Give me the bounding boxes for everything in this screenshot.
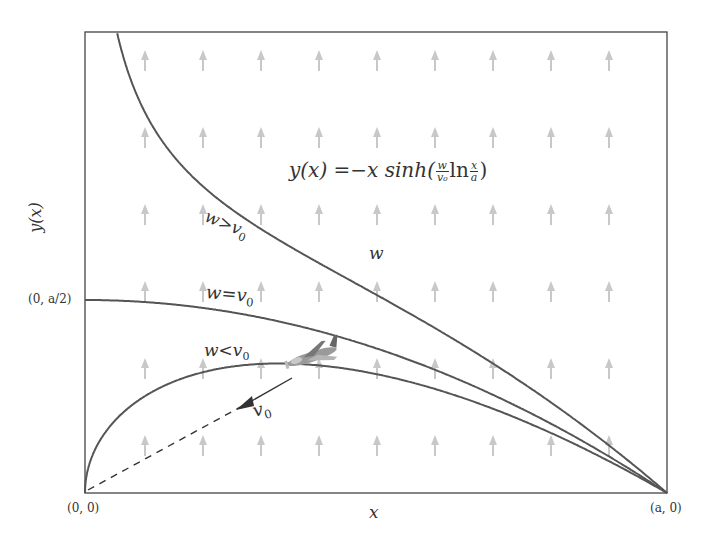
- wind-arrowhead-icon: [373, 358, 381, 368]
- trajectory-curve-w-eq-v0: [85, 300, 667, 493]
- wind-arrowhead-icon: [257, 50, 265, 60]
- wind-arrowhead-icon: [199, 127, 207, 137]
- wind-arrowhead-icon: [489, 50, 497, 60]
- wind-arrowhead-icon: [199, 435, 207, 445]
- half-height-label: (0, a/2): [28, 292, 71, 306]
- wind-arrowhead-icon: [605, 281, 613, 291]
- wind-arrowhead-icon: [605, 50, 613, 60]
- wind-arrowhead-icon: [605, 358, 613, 368]
- formula-frac-w-v0: wv₀: [436, 160, 449, 183]
- trajectory-curves: [85, 33, 667, 493]
- wind-arrowhead-icon: [315, 281, 323, 291]
- formula-rhs-prefix: −x sinh(: [350, 158, 435, 182]
- formula-equals: =: [334, 158, 351, 182]
- y-axis-label: y(x): [26, 202, 45, 233]
- x-axis-label: x: [369, 502, 379, 522]
- formula-label: y(x) =−x sinh(wv₀lnxa): [289, 158, 487, 183]
- plot-canvas: [0, 0, 702, 541]
- wind-arrowhead-icon: [373, 127, 381, 137]
- airplane-icon: [281, 334, 345, 375]
- wind-arrowhead-icon: [431, 435, 439, 445]
- wind-arrowhead-icon: [431, 127, 439, 137]
- wind-arrowhead-icon: [257, 281, 265, 291]
- formula-ln: ln: [450, 158, 469, 182]
- trajectory-curve-w-gt-v0: [117, 33, 667, 493]
- label-w-lt-v0: w<v0: [204, 340, 249, 363]
- wind-arrowhead-icon: [489, 204, 497, 214]
- formula-frac-x-a: xa: [470, 160, 479, 183]
- wind-arrowhead-icon: [199, 50, 207, 60]
- trajectory-curve-w-lt-v0: [85, 364, 667, 494]
- end-point-label: (a, 0): [650, 501, 682, 515]
- wind-arrowhead-icon: [547, 281, 555, 291]
- wind-arrowhead-icon: [547, 50, 555, 60]
- formula-rhs-suffix: ): [479, 158, 487, 182]
- wind-arrowhead-icon: [547, 204, 555, 214]
- wind-arrowhead-icon: [489, 281, 497, 291]
- wind-arrowhead-icon: [373, 281, 381, 291]
- wind-arrowhead-icon: [431, 358, 439, 368]
- frac-den-v0: v₀: [436, 172, 449, 183]
- formula-lhs: y(x): [289, 158, 327, 182]
- wind-arrowhead-icon: [141, 358, 149, 368]
- wind-arrowhead-icon: [489, 435, 497, 445]
- wind-arrowhead-icon: [547, 358, 555, 368]
- wind-arrowhead-icon: [373, 204, 381, 214]
- wind-arrowhead-icon: [141, 127, 149, 137]
- frac-den-a: a: [470, 172, 479, 183]
- wind-arrowhead-icon: [141, 435, 149, 445]
- label-w-eq-v0: w=v0: [205, 281, 255, 310]
- wind-arrowhead-icon: [141, 204, 149, 214]
- wind-arrowhead-icon: [141, 50, 149, 60]
- wind-arrowhead-icon: [605, 127, 613, 137]
- pursuit-curve-figure: y(x) =−x sinh(wv₀lnxa) w>v0 w=v0 w<v0 w …: [0, 0, 702, 541]
- wind-arrowhead-icon: [373, 435, 381, 445]
- wind-label: w: [369, 243, 384, 263]
- wind-arrowhead-icon: [315, 435, 323, 445]
- wind-arrowhead-icon: [315, 204, 323, 214]
- wind-arrowhead-icon: [257, 127, 265, 137]
- wind-arrowhead-icon: [141, 281, 149, 291]
- wind-arrowhead-icon: [547, 127, 555, 137]
- wind-arrowhead-icon: [257, 435, 265, 445]
- line-of-sight-dashed: [88, 404, 246, 490]
- wind-arrowhead-icon: [315, 127, 323, 137]
- origin-label: (0, 0): [67, 501, 99, 515]
- wind-arrowhead-icon: [431, 50, 439, 60]
- wind-arrowhead-icon: [257, 204, 265, 214]
- wind-arrowhead-icon: [431, 204, 439, 214]
- wind-arrowhead-icon: [547, 435, 555, 445]
- wind-arrowhead-icon: [373, 50, 381, 60]
- wind-arrowhead-icon: [431, 281, 439, 291]
- wind-arrowhead-icon: [315, 50, 323, 60]
- wind-arrowhead-icon: [605, 204, 613, 214]
- wind-arrowhead-icon: [489, 127, 497, 137]
